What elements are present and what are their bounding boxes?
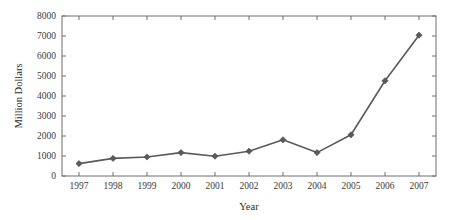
x-tick-label: 2001: [206, 181, 225, 191]
y-axis-tick-labels: 010002000300040005000600070008000: [37, 11, 56, 181]
y-tick-label: 3000: [37, 111, 56, 121]
x-tick-label: 2005: [342, 181, 361, 191]
x-tick-label: 2004: [308, 181, 327, 191]
y-tick-label: 1000: [37, 151, 56, 161]
x-tick-label: 2003: [274, 181, 293, 191]
x-tick-label: 1999: [138, 181, 157, 191]
line-chart-figure: 010002000300040005000600070008000 199719…: [0, 0, 460, 220]
chart-canvas: 010002000300040005000600070008000 199719…: [0, 0, 460, 220]
x-tick-label: 2000: [172, 181, 191, 191]
y-tick-label: 4000: [37, 91, 56, 101]
x-tick-label: 2002: [240, 181, 259, 191]
y-tick-label: 8000: [37, 11, 56, 21]
x-tick-label: 2007: [410, 181, 429, 191]
x-tick-label: 1998: [104, 181, 123, 191]
x-tick-label: 2006: [376, 181, 395, 191]
y-tick-label: 0: [51, 171, 56, 181]
y-tick-label: 7000: [37, 31, 56, 41]
y-tick-label: 6000: [37, 51, 56, 61]
y-tick-label: 2000: [37, 131, 56, 141]
y-axis-title: Million Dollars: [13, 63, 24, 128]
y-tick-label: 5000: [37, 71, 56, 81]
x-tick-label: 1997: [70, 181, 89, 191]
x-axis-title: Year: [239, 201, 259, 212]
